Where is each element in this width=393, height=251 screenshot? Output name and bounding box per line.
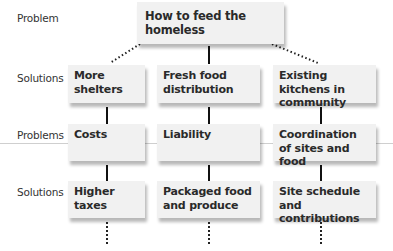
root-label: How to feed the homeless: [145, 9, 246, 37]
connector-col1-a: [106, 107, 108, 124]
continuation-col3: [320, 222, 322, 244]
subsolution-node-3: Site schedule and contributions: [273, 181, 376, 218]
solution-label-1: More shelters: [74, 69, 123, 96]
connector-col2-b: [208, 165, 210, 181]
root-node: How to feed the homeless: [137, 2, 284, 44]
subsolution-node-2: Packaged food and produce: [157, 181, 260, 218]
connector-col3-a: [320, 107, 322, 124]
problem-node-3: Coordination of sites and food: [273, 124, 376, 161]
solution-node-1: More shelters: [68, 65, 145, 103]
continuation-col2: [208, 222, 210, 244]
problem-node-2: Liability: [157, 124, 260, 161]
subsolution-label-2: Packaged food and produce: [163, 185, 252, 212]
subsolution-label-1: Higher taxes: [74, 185, 114, 212]
problem-label-1: Costs: [74, 128, 107, 141]
problem-label-2: Liability: [163, 128, 211, 141]
root-connector-center: [208, 46, 210, 64]
subsolution-node-1: Higher taxes: [68, 181, 145, 218]
solution-node-2: Fresh food distribution: [157, 65, 260, 103]
solution-label-2: Fresh food distribution: [163, 69, 233, 96]
connector-col3-b: [320, 165, 322, 181]
continuation-col1: [106, 222, 108, 244]
connector-col2-a: [208, 107, 210, 124]
problem-node-1: Costs: [68, 124, 145, 161]
connector-col1-b: [106, 165, 108, 181]
solution-node-3: Existing kitchens in community: [273, 65, 376, 103]
subsolution-label-3: Site schedule and contributions: [279, 185, 360, 225]
solution-label-3: Existing kitchens in community: [279, 69, 346, 109]
